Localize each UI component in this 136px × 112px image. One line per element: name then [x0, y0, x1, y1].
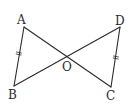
label-a: A	[16, 13, 26, 27]
segment-ab	[14, 27, 24, 86]
geometry-figure: A B C D O	[0, 0, 136, 112]
segment-ac	[24, 27, 111, 87]
equal-mark-ab	[16, 52, 21, 55]
label-o: O	[62, 60, 72, 74]
label-c: C	[106, 89, 115, 103]
label-b: B	[8, 88, 17, 102]
segment-bd	[14, 27, 120, 86]
label-d: D	[115, 14, 125, 28]
